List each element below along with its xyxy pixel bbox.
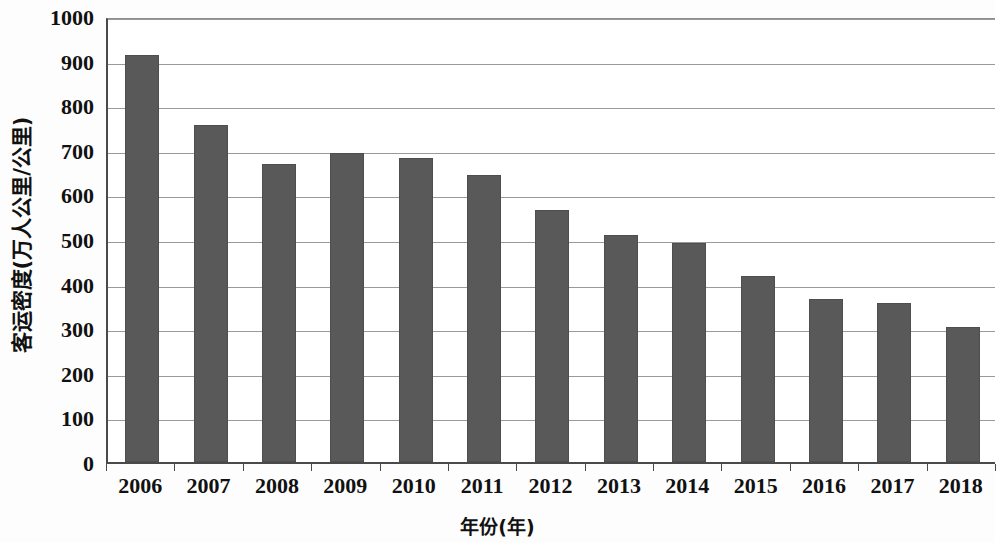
bar[interactable] [809,299,843,462]
x-axis-tick [243,464,244,471]
x-axis-tick-label: 2012 [529,474,573,498]
x-axis-tick-label: 2007 [187,474,231,498]
x-axis-tick-label: 2013 [597,474,641,498]
bar[interactable] [604,235,638,462]
y-axis-tick-label: 500 [30,230,94,252]
bar[interactable] [946,327,980,462]
x-axis-tick-label: 2014 [665,474,709,498]
bar[interactable] [467,175,501,462]
bar-slot [792,19,860,462]
x-axis-tick-label: 2008 [255,474,299,498]
x-axis-tick [585,464,586,471]
x-axis-tick [106,464,107,471]
x-axis-tick-labels: 2006200720082009201020112012201320142015… [106,474,995,504]
y-axis-tick-label: 1000 [30,7,94,29]
x-axis-tick [790,464,791,471]
y-axis-tick-label: 900 [30,52,94,74]
x-axis-tick [448,464,449,471]
y-axis-tick-label: 600 [30,185,94,207]
bars-layer [108,19,995,462]
bar-slot [450,19,518,462]
x-axis-tick [311,464,312,471]
y-axis-tick-label: 200 [30,364,94,386]
x-axis-tick-label: 2017 [870,474,914,498]
x-axis-tick [380,464,381,471]
x-axis-tick [721,464,722,471]
x-axis-tick-label: 2016 [802,474,846,498]
bar-slot [108,19,176,462]
bar-slot [860,19,928,462]
y-axis-tick-labels: 01002003004005006007008009001000 [30,0,102,480]
bar[interactable] [877,303,911,462]
bar[interactable] [125,55,159,462]
x-axis-tick [927,464,928,471]
bar[interactable] [330,153,364,462]
x-axis-tick-label: 2018 [939,474,983,498]
y-axis-tick-label: 400 [30,275,94,297]
x-axis-tick [516,464,517,471]
y-axis-tick-label: 0 [30,453,94,475]
bar-slot [313,19,381,462]
bar[interactable] [262,164,296,462]
x-axis-tick-label: 2006 [118,474,162,498]
x-axis-tick-label: 2011 [461,474,504,498]
bar-slot [245,19,313,462]
bar-slot [929,19,997,462]
bar-slot [655,19,723,462]
x-axis-title: 年份(年) [0,512,995,539]
y-axis-tick-label: 700 [30,141,94,163]
bar-slot [518,19,586,462]
x-axis-tick [995,464,996,471]
bar[interactable] [399,158,433,462]
x-axis-tick [858,464,859,471]
bar-slot [382,19,450,462]
x-axis-tick-label: 2010 [392,474,436,498]
bar-slot [176,19,244,462]
bar[interactable] [194,125,228,462]
bar[interactable] [672,243,706,462]
x-axis-tick [174,464,175,471]
bar-slot [587,19,655,462]
bar[interactable] [535,210,569,462]
bar[interactable] [741,276,775,462]
x-axis-tick-label: 2015 [734,474,778,498]
y-axis-tick-label: 800 [30,96,94,118]
bar-slot [723,19,791,462]
x-axis-tick-label: 2009 [323,474,367,498]
y-axis-tick-label: 100 [30,408,94,430]
y-axis-tick-label: 300 [30,319,94,341]
x-axis-tick [653,464,654,471]
plot-area [106,18,995,464]
